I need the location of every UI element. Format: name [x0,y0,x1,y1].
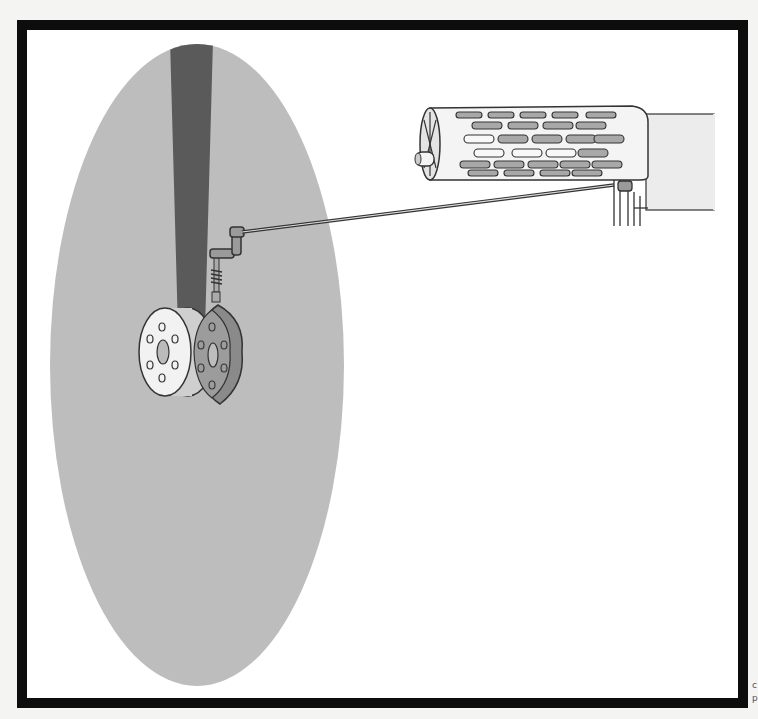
margin-mark: p [752,693,758,703]
housing-block [646,114,714,210]
bracket-lever [614,180,648,226]
margin-mark: c [752,680,757,690]
mechanism-illustration [0,0,758,719]
perforated-cylinder [415,106,648,180]
